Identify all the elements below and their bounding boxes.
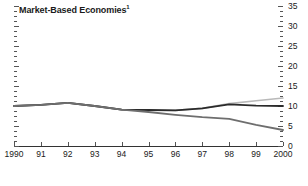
y-axis-tick-label: 20 bbox=[288, 61, 297, 71]
y-axis-tick-label: 30 bbox=[288, 21, 297, 31]
y-axis-tick-label: 10 bbox=[288, 101, 297, 111]
y-axis-tick-label: 35 bbox=[288, 1, 297, 11]
chart-container: Market-Based Economies1 05101520253035 1… bbox=[0, 0, 308, 186]
y-axis-tick-label: 15 bbox=[288, 81, 297, 91]
chart-series-series-dark-declining bbox=[14, 103, 283, 130]
y-axis-tick-label: 5 bbox=[288, 121, 293, 131]
y-axis-tick-label: 25 bbox=[288, 41, 297, 51]
x-axis-tick-label: 2000 bbox=[267, 149, 299, 159]
